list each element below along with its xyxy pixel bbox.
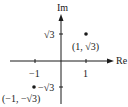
tick-label-x-pos: 1 — [83, 68, 88, 79]
tick-label-y-neg: −√3 — [38, 82, 54, 93]
point-1-sqrt3 — [84, 32, 88, 36]
tick-label-y-pos: √3 — [44, 29, 55, 40]
y-axis-label: Im — [57, 2, 68, 13]
point-label-1-sqrt3: (1, √3) — [72, 41, 99, 53]
imaginary-axis-arrow-icon — [59, 14, 64, 21]
x-axis-label: Re — [116, 55, 128, 66]
point-neg1-negsqrt3 — [32, 85, 36, 89]
diagram-canvas: Im Re 1 −1 √3 −√3 (1, √3) (−1, −√3) — [0, 0, 128, 107]
real-axis-arrow-icon — [107, 59, 114, 64]
complex-plane-diagram: Im Re 1 −1 √3 −√3 (1, √3) (−1, −√3) — [0, 0, 128, 107]
point-label-neg1-negsqrt3: (−1, −√3) — [2, 93, 40, 105]
tick-label-x-neg: −1 — [29, 68, 40, 79]
